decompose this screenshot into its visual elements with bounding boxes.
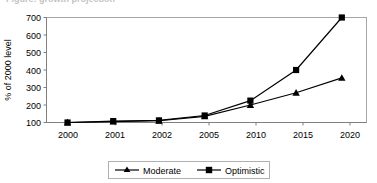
series-optimistic	[64, 14, 344, 125]
x-tick-label: 2002	[152, 130, 172, 140]
chart-container: Figure: growth projection 700 600 500 40…	[0, 0, 377, 183]
x-tick-labels: 2000 2001 2002 2005 2010 2015 2020	[58, 130, 360, 140]
line-chart: 700 600 500 400 300 200 100 % of 2000 le…	[0, 0, 377, 183]
y-tick-label: 700	[26, 13, 41, 23]
x-tick-label: 2000	[58, 130, 78, 140]
data-point-square	[247, 98, 253, 104]
legend-label-optimistic: Optimistic	[225, 166, 265, 176]
legend-label-moderate: Moderate	[143, 166, 181, 176]
data-point-square	[293, 67, 299, 73]
y-tick-label: 300	[26, 83, 41, 93]
x-tick-label: 2020	[340, 130, 360, 140]
data-point-square	[110, 118, 116, 124]
data-point-square	[202, 112, 208, 118]
chart-legend: Moderate Optimistic	[109, 162, 270, 179]
series-layer	[64, 14, 346, 125]
series-line-optimistic	[68, 18, 342, 123]
data-point-square	[64, 119, 70, 125]
y-tick-labels: 700 600 500 400 300 200 100	[26, 13, 41, 128]
y-axis-title: % of 2000 level	[3, 39, 13, 101]
data-point-square	[339, 14, 345, 20]
plot-area-border	[47, 18, 367, 123]
x-tick-label: 2015	[293, 130, 313, 140]
square-marker-icon	[206, 167, 212, 173]
y-tick-label: 500	[26, 48, 41, 58]
y-tick-label: 200	[26, 101, 41, 111]
y-tick-label: 100	[26, 118, 41, 128]
y-tick-label: 600	[26, 31, 41, 41]
y-tick-label: 400	[26, 66, 41, 76]
data-point-square	[156, 117, 162, 123]
x-tick-label: 2001	[105, 130, 125, 140]
data-point-triangle	[338, 74, 345, 81]
x-tick-label: 2005	[199, 130, 219, 140]
x-tick-label: 2010	[246, 130, 266, 140]
